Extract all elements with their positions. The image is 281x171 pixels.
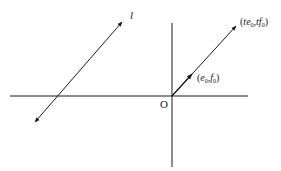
point-near-label: (e0,f0) [197,72,219,84]
line-l-label: l [130,9,133,21]
vector-unit-arrow [172,74,192,96]
line-l [35,22,122,122]
point-far-label: (te0,tf0) [240,16,268,28]
diagram-canvas: O l (e0,f0) (te0,tf0) [0,0,281,171]
origin-label: O [160,98,168,110]
